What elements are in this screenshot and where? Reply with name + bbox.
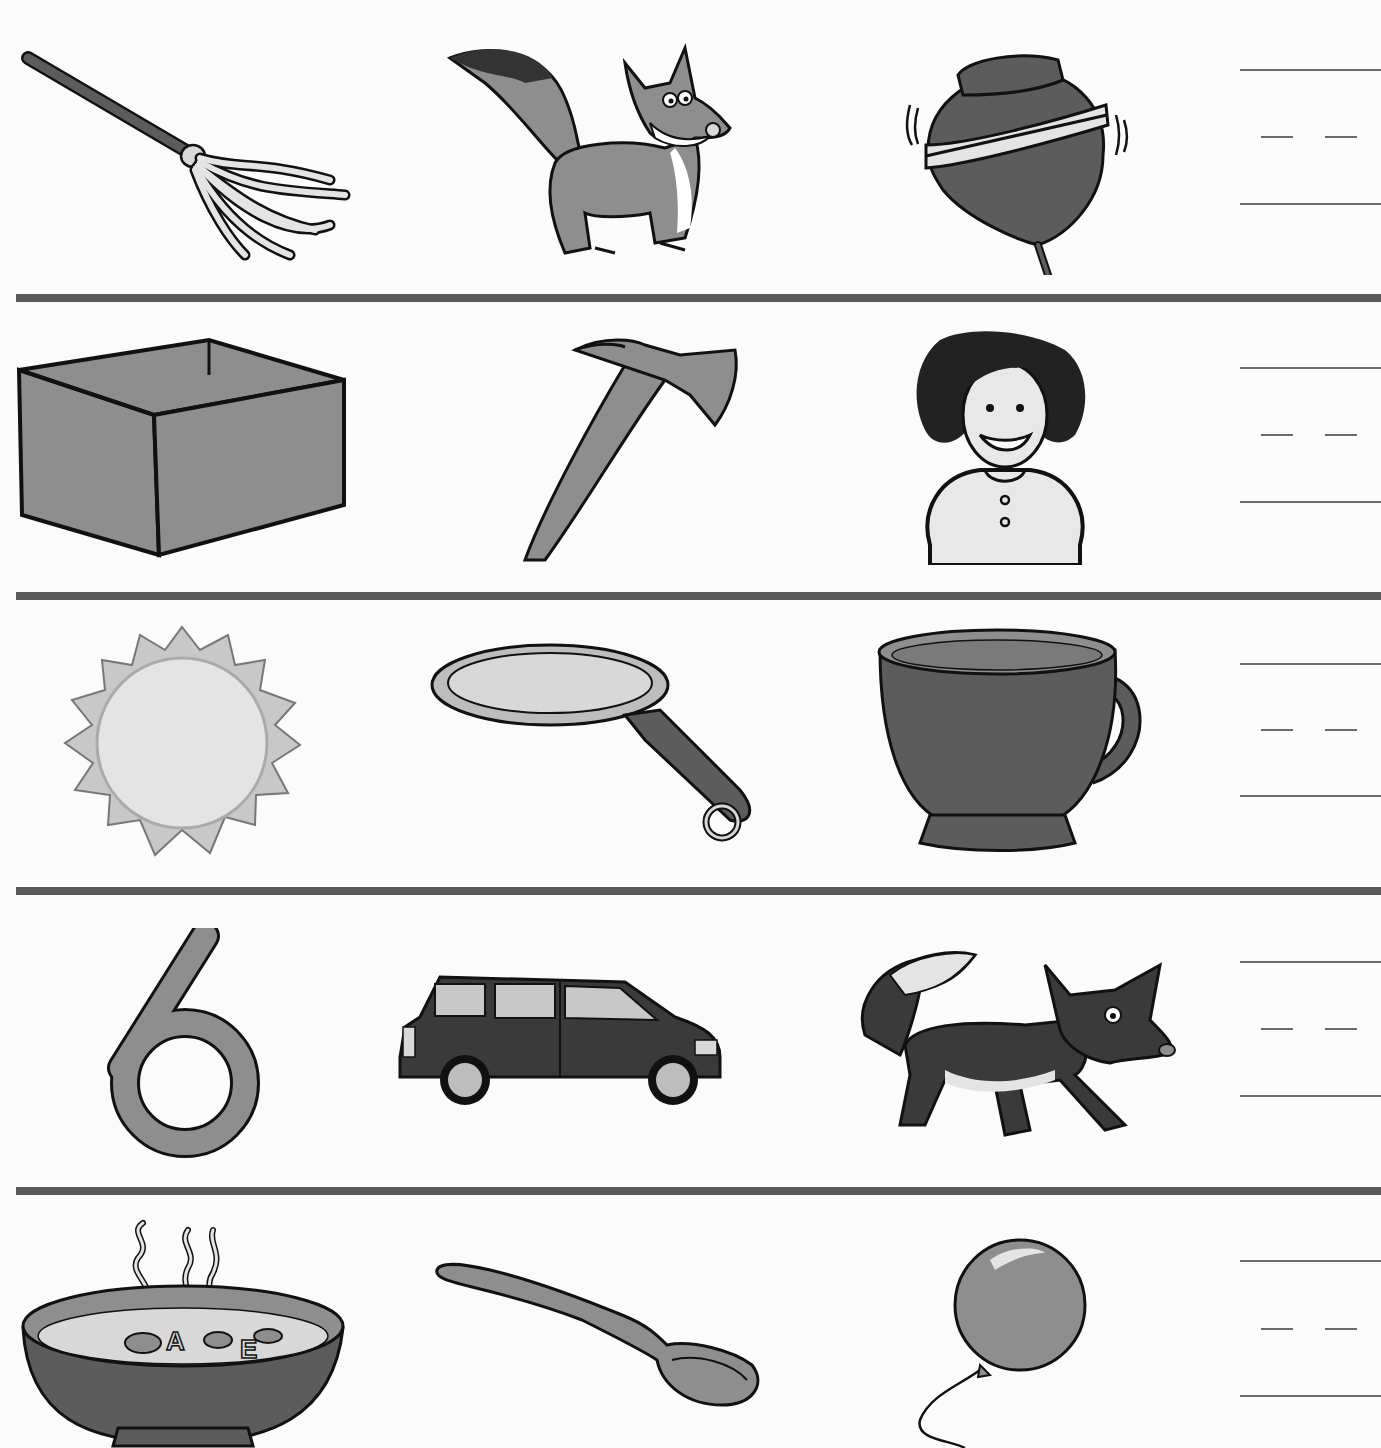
writing-dash xyxy=(1325,729,1357,731)
writing-dash xyxy=(1325,434,1357,436)
soup-letter-a: A xyxy=(166,1326,185,1356)
writing-dash xyxy=(1261,1028,1293,1030)
writing-line-bottom xyxy=(1240,1395,1381,1397)
answer-row-3 xyxy=(0,0,1,1)
writing-dash xyxy=(1261,1328,1293,1330)
girl-icon: girl xyxy=(910,330,1100,565)
writing-dash xyxy=(1325,136,1357,138)
writing-line-bottom xyxy=(1240,501,1381,503)
soup-bowl-icon: soup A E xyxy=(18,1218,348,1448)
writing-line-bottom xyxy=(1240,203,1381,205)
cup-icon: cup xyxy=(875,625,1145,855)
box-icon: box xyxy=(14,330,354,560)
writing-line-top xyxy=(1240,663,1381,665)
writing-line-bottom xyxy=(1240,795,1381,797)
ax-icon: ax xyxy=(505,335,750,565)
writing-dash xyxy=(1325,1028,1357,1030)
mop-icon: mop xyxy=(10,40,360,270)
row-divider-2 xyxy=(16,592,1381,600)
row-divider-3 xyxy=(16,887,1381,895)
balloon-icon: balloon xyxy=(910,1235,1115,1448)
writing-line-top xyxy=(1240,69,1381,71)
writing-line-top xyxy=(1240,961,1381,963)
spinning-top-icon: top xyxy=(888,50,1138,275)
van-icon: van xyxy=(395,972,730,1117)
row-divider-4 xyxy=(16,1187,1381,1195)
writing-line-top xyxy=(1240,1260,1381,1262)
spoon-icon: spoon xyxy=(432,1255,767,1415)
number-six-icon: six xyxy=(100,928,270,1160)
writing-line-bottom xyxy=(1240,1095,1381,1097)
answer-row-5 xyxy=(0,0,1,1)
fox-icon: fox xyxy=(445,38,745,273)
writing-dash xyxy=(1261,434,1293,436)
fox-icon: fox xyxy=(845,945,1180,1145)
pan-icon: pan xyxy=(430,640,765,845)
answer-row-2 xyxy=(0,0,1,1)
answer-row-1 xyxy=(0,0,1,1)
answer-row-4 xyxy=(0,0,1,1)
writing-dash xyxy=(1325,1328,1357,1330)
writing-dash xyxy=(1261,136,1293,138)
sun-icon: sun xyxy=(60,625,305,860)
writing-line-top xyxy=(1240,367,1381,369)
writing-dash xyxy=(1261,729,1293,731)
row-divider-1 xyxy=(16,294,1381,302)
soup-letter-e: E xyxy=(240,1334,257,1364)
